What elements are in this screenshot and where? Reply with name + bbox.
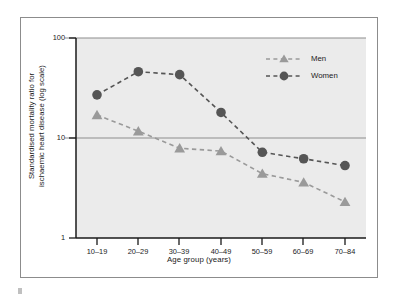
data-point-women-5: [299, 154, 309, 164]
y-axis-title-line1: Standardised mortality ratio for: [27, 73, 37, 179]
scan-artifact-mark: [18, 288, 22, 294]
legend-label-men: Men: [311, 54, 326, 63]
data-point-women-4: [258, 147, 268, 157]
y-axis-title-line2: ischaemic heart disease (log scale): [37, 65, 47, 187]
y-axis-title: Standardised mortality ratio for ischaem…: [25, 36, 49, 216]
figure-frame: 100 10 1 10–19 20–29 30–39 40–49 50–59 6…: [20, 17, 378, 278]
ytick-label-1: 1: [43, 233, 65, 242]
data-point-women-1: [134, 67, 144, 77]
x-axis-title: Age group (years): [21, 255, 377, 264]
legend-marker-women-circle: [280, 72, 289, 81]
data-point-women-3: [216, 108, 226, 118]
legend-label-women: Women: [311, 71, 338, 80]
data-point-women-6: [340, 161, 350, 171]
data-point-women-2: [175, 70, 185, 80]
data-point-women-0: [92, 90, 102, 100]
